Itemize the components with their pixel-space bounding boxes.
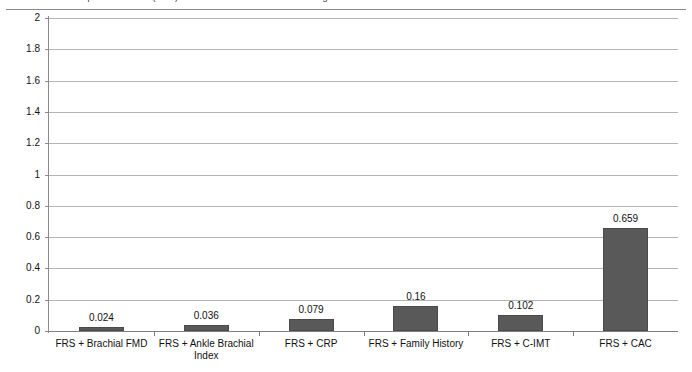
bar[interactable] [184,325,229,331]
y-axis-tick-mark [45,81,49,82]
x-axis-category-label: FRS + C-IMT [468,338,573,350]
x-axis-tick-mark [573,331,574,336]
gridline [49,81,678,82]
y-axis-tick-label: 0.2 [0,295,40,305]
y-axis-tick-label: 0 [0,326,40,336]
y-axis-tick-mark [45,49,49,50]
y-axis-tick-label: 1.8 [0,44,40,54]
y-axis-tick-mark [45,206,49,207]
y-axis-tick-mark [45,300,49,301]
caption-divider-rule [6,9,686,10]
bar-value-label: 0.079 [271,304,351,315]
y-axis-tick-mark [45,331,49,332]
gridline [49,18,678,19]
y-axis-tick-label: 0.8 [0,201,40,211]
x-axis-tick-mark [154,331,155,336]
bar-value-label: 0.036 [166,310,246,321]
y-axis-tick-mark [45,268,49,269]
x-axis-category-label: FRS + Family History [364,338,469,350]
gridline [49,175,678,176]
y-axis-tick-label: 1.2 [0,138,40,148]
y-axis-tick-label: 2 [0,13,40,23]
bar-value-label: 0.024 [61,312,141,323]
x-axis-category-label: FRS + Brachial FMD [49,338,154,350]
bar-value-label: 0.16 [376,291,456,302]
y-axis-tick-label: 1.4 [0,107,40,117]
bar[interactable] [79,327,124,331]
x-axis-tick-mark [468,331,469,336]
bar-chart-figure: Incremental predictive value (delta) of … [0,0,692,372]
bar[interactable] [289,319,334,331]
x-axis-category-label: FRS + CAC [573,338,678,350]
bar[interactable] [393,306,438,331]
figure-caption-text: Incremental predictive value (delta) of … [38,0,391,3]
y-axis-tick-label: 0.6 [0,232,40,242]
y-axis-tick-mark [45,112,49,113]
y-axis-tick-mark [45,237,49,238]
gridline [49,143,678,144]
x-axis-tick-mark [364,331,365,336]
x-axis-category-label: FRS + Ankle Brachial Index [154,338,259,362]
y-axis-tick-mark [45,18,49,19]
gridline [49,112,678,113]
y-axis-tick-label: 1.6 [0,76,40,86]
y-axis-tick-mark [45,175,49,176]
bar[interactable] [498,315,543,331]
y-axis-tick-label: 0.4 [0,263,40,273]
gridline [49,49,678,50]
plot-area [49,18,678,331]
bar-value-label: 0.659 [586,213,666,224]
bar-value-label: 0.102 [481,300,561,311]
gridline [49,300,678,301]
figure-caption-strip: Incremental predictive value (delta) of … [0,0,692,9]
x-axis-tick-mark [259,331,260,336]
y-axis-tick-mark [45,143,49,144]
gridline [49,206,678,207]
gridline [49,237,678,238]
bar[interactable] [603,228,648,331]
gridline [49,268,678,269]
x-axis-category-label: FRS + CRP [259,338,364,350]
y-axis-tick-label: 1 [0,170,40,180]
